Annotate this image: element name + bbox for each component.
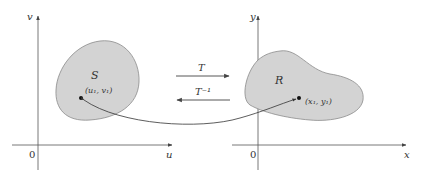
u-axis-label: u [166,149,172,160]
y-axis-label: y [249,11,256,22]
xy-plane [232,16,406,170]
region-r [245,51,363,121]
transformation-diagram: v u 0 S (u₁, v₁) T T⁻¹ y x 0 R (x₁, y₁) [0,0,421,177]
region-s-label: S [91,69,99,82]
forward-arrow-label: T [198,62,206,73]
point-u1v1 [79,96,83,100]
x-axis-label: x [404,149,410,160]
v-axis-label: v [27,11,33,22]
inverse-arrow-label: T⁻¹ [195,86,211,97]
point-x1y1-label: (x₁, y₁) [305,97,332,106]
xy-origin-label: 0 [250,149,256,160]
uv-origin-label: 0 [29,149,35,160]
region-r-label: R [274,74,283,87]
point-u1v1-label: (u₁, v₁) [85,86,112,95]
point-x1y1 [297,96,301,100]
